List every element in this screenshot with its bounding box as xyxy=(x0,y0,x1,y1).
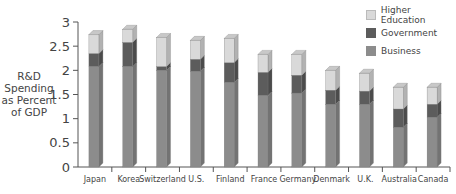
bar-segment-business xyxy=(393,127,403,167)
bar-segment-government xyxy=(123,42,133,66)
bar-segment-business xyxy=(123,66,133,167)
bar-side xyxy=(268,91,272,167)
x-category-label: Switzerland xyxy=(139,175,186,184)
legend-item-government: Government xyxy=(366,24,456,42)
bar-segment-government xyxy=(427,104,437,117)
y-axis-label-line: Spending xyxy=(0,82,58,94)
bar-side xyxy=(234,78,238,167)
bar-segment-business xyxy=(292,93,302,167)
bar-side xyxy=(302,89,306,167)
bar-segment-government xyxy=(258,72,268,95)
y-tick-label: 0 xyxy=(62,160,70,175)
legend-swatch-government xyxy=(366,28,376,38)
bar-side xyxy=(403,83,407,109)
bar-segment-government xyxy=(89,53,99,66)
y-axis-label-line: as Percent xyxy=(0,94,58,106)
legend-item-business: Business xyxy=(366,42,456,60)
bar-segment-higher-education xyxy=(89,35,99,54)
bar-segment-higher-education xyxy=(258,54,268,72)
bar-segment-government xyxy=(393,109,403,127)
x-category-label: Germany xyxy=(279,175,316,184)
legend-swatch-higher-education xyxy=(366,10,376,20)
x-category-label: Australia xyxy=(382,175,417,184)
bar-segment-higher-education xyxy=(190,40,200,59)
bar-segment-higher-education xyxy=(326,70,336,90)
legend-label: Business xyxy=(381,46,421,56)
y-tick-label: 2 xyxy=(62,63,70,78)
bar-segment-higher-education xyxy=(393,87,403,109)
bar-segment-higher-education xyxy=(157,37,167,66)
bar-side xyxy=(200,67,204,167)
bar-side xyxy=(99,62,103,167)
bar-segment-government xyxy=(292,75,302,93)
bar-side xyxy=(336,100,340,167)
y-tick-label: 2.5 xyxy=(49,39,70,54)
legend-label: Higher Education xyxy=(381,5,456,25)
y-axis-label: R&D Spending as Percent of GDP xyxy=(0,70,58,118)
y-axis-label-line: R&D xyxy=(0,70,58,82)
bar-segment-government xyxy=(190,59,200,71)
y-tick-label: 1 xyxy=(62,111,70,126)
bar-segment-business xyxy=(190,71,200,167)
bar-segment-higher-education xyxy=(123,29,133,42)
legend-item-higher-education: Higher Education xyxy=(366,6,456,24)
x-category-label: U.S. xyxy=(188,175,204,184)
bar-side xyxy=(268,68,272,95)
x-category-label: Korea xyxy=(117,175,140,184)
bar-segment-higher-education xyxy=(359,73,369,91)
bar-segment-higher-education xyxy=(292,54,302,75)
y-tick-label: 3 xyxy=(62,15,70,30)
bar-segment-higher-education xyxy=(224,38,234,62)
bar-side xyxy=(302,50,306,75)
legend-label: Government xyxy=(381,28,437,38)
bar-side xyxy=(403,123,407,167)
x-category-label: France xyxy=(251,175,278,184)
x-category-label: U.K. xyxy=(357,175,373,184)
bar-side xyxy=(167,33,171,66)
bar-side xyxy=(133,38,137,66)
bar-segment-government xyxy=(157,66,167,70)
bar-segment-business xyxy=(258,95,268,167)
bar-side xyxy=(437,113,441,167)
bar-segment-business xyxy=(359,104,369,167)
bar-segment-government xyxy=(326,90,336,104)
x-category-label: Finland xyxy=(216,175,245,184)
bar-side xyxy=(133,62,137,167)
x-category-label: Denmark xyxy=(313,175,350,184)
bar-segment-higher-education xyxy=(427,87,437,104)
bar-segment-business xyxy=(326,104,336,167)
legend: Higher Education Government Business xyxy=(366,6,456,60)
bar-segment-business xyxy=(224,82,234,167)
y-tick-label: 0.5 xyxy=(49,135,70,150)
bar-side xyxy=(369,100,373,167)
bar-segment-business xyxy=(157,70,167,167)
bar-segment-government xyxy=(359,91,369,104)
x-category-label: Japan xyxy=(83,175,106,184)
bar-segment-government xyxy=(224,63,234,83)
bar-segment-business xyxy=(427,117,437,167)
bar-side xyxy=(234,34,238,62)
x-category-label: Canada xyxy=(418,175,449,184)
bar-side xyxy=(167,66,171,167)
y-axis-label-line: of GDP xyxy=(0,106,58,118)
bar-segment-business xyxy=(89,66,99,167)
legend-swatch-business xyxy=(366,46,376,56)
